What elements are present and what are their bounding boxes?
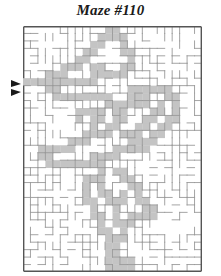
- entry-arrow-icon: [11, 80, 23, 96]
- maze-board: [23, 26, 202, 272]
- maze-title: Maze #110: [0, 2, 221, 19]
- maze-grid: [23, 26, 202, 272]
